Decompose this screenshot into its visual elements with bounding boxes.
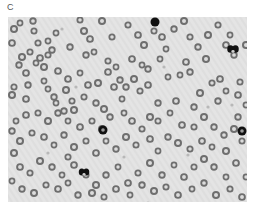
red-blood-cell [136, 87, 143, 94]
red-blood-cell [162, 183, 169, 190]
red-blood-cell [29, 17, 36, 24]
red-blood-cell [54, 109, 61, 116]
red-blood-cell [190, 163, 197, 170]
red-blood-cell [80, 93, 87, 100]
red-blood-cell [110, 83, 118, 91]
red-blood-cell [13, 118, 20, 125]
red-blood-cell [198, 137, 206, 145]
red-blood-cell [18, 185, 25, 192]
red-blood-cell [234, 113, 241, 120]
red-blood-cell [128, 117, 136, 125]
red-blood-cell [134, 31, 142, 39]
red-blood-cell [88, 117, 95, 124]
red-blood-cell [158, 171, 165, 178]
red-blood-cell [45, 38, 52, 45]
red-blood-cell [146, 135, 154, 143]
red-blood-cell [200, 179, 207, 186]
red-blood-cell [33, 60, 40, 67]
red-blood-cell [65, 180, 72, 187]
red-blood-cell [70, 106, 78, 114]
red-blood-cell [80, 27, 88, 35]
red-blood-cell [132, 141, 139, 148]
red-blood-cell [53, 30, 60, 37]
red-blood-cell [36, 157, 44, 165]
red-blood-cell [62, 86, 70, 94]
debris-speck [162, 65, 165, 68]
red-blood-cell [26, 169, 33, 176]
red-blood-cell [24, 81, 31, 88]
red-blood-cell [116, 76, 123, 83]
debris-speck [60, 27, 63, 30]
red-blood-cell [212, 191, 220, 199]
micrograph-canvas [8, 17, 247, 202]
red-blood-cell [64, 75, 72, 83]
red-blood-cell [115, 164, 122, 171]
red-blood-cell [121, 110, 128, 117]
red-blood-cell [230, 125, 238, 133]
red-blood-cell [10, 25, 18, 33]
red-blood-cell [171, 162, 178, 169]
red-blood-cell [104, 57, 111, 64]
red-blood-cell [106, 113, 113, 120]
red-blood-cell [44, 117, 52, 125]
red-blood-cell [238, 137, 245, 144]
red-blood-cell [146, 113, 154, 121]
red-blood-cell [172, 97, 180, 105]
red-blood-cell [53, 100, 60, 107]
red-blood-cell [92, 181, 100, 189]
red-blood-cell [174, 191, 182, 199]
red-blood-cell [40, 63, 48, 71]
red-blood-cell [194, 43, 201, 50]
red-blood-cell [174, 139, 182, 147]
red-blood-cell [208, 79, 215, 86]
red-blood-cell [92, 149, 100, 157]
red-blood-cell [17, 20, 24, 27]
red-blood-cell [119, 96, 126, 103]
red-blood-cell [167, 110, 174, 117]
red-blood-cell [216, 75, 224, 83]
red-blood-cell [30, 189, 38, 197]
red-blood-cell [186, 33, 193, 40]
red-blood-cell [190, 123, 197, 130]
red-blood-cell [130, 75, 138, 83]
red-blood-cell [182, 58, 190, 66]
red-blood-cell [200, 155, 208, 163]
red-blood-cell [50, 93, 57, 100]
red-blood-cell [140, 41, 148, 49]
red-blood-cell [16, 163, 24, 171]
red-blood-cell [26, 48, 33, 55]
red-blood-cell [40, 133, 48, 141]
red-blood-cell [138, 125, 145, 132]
red-blood-cell [170, 25, 177, 32]
red-blood-cell [220, 131, 227, 138]
red-blood-cell [124, 179, 132, 187]
red-blood-cell [98, 17, 106, 25]
panel-label: C [7, 3, 14, 12]
debris-speck [74, 85, 77, 88]
red-blood-cell [68, 97, 75, 104]
red-blood-cell [186, 68, 193, 75]
red-blood-cell [70, 161, 78, 169]
red-blood-cell [189, 186, 196, 193]
red-blood-cell [223, 88, 230, 95]
red-blood-cell [9, 178, 16, 185]
red-blood-cell [10, 83, 17, 90]
debris-speck [46, 151, 49, 154]
red-blood-cell [34, 39, 41, 46]
red-blood-cell [236, 78, 243, 85]
red-blood-cell [48, 163, 55, 170]
red-blood-cell [180, 17, 188, 25]
red-blood-cell [128, 55, 136, 63]
red-blood-cell [210, 123, 217, 130]
red-blood-cell [8, 127, 15, 134]
red-blood-cell [100, 105, 108, 113]
red-blood-cell [70, 143, 78, 151]
debris-speck [206, 105, 209, 108]
red-blood-cell [54, 67, 62, 75]
red-blood-cell [112, 185, 120, 193]
red-blood-cell [150, 27, 157, 34]
red-blood-cell [10, 149, 18, 157]
red-blood-cell [15, 61, 22, 68]
red-blood-cell [44, 51, 51, 58]
red-blood-cell [150, 187, 158, 195]
